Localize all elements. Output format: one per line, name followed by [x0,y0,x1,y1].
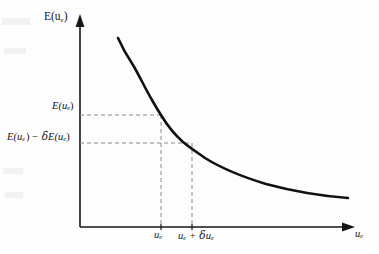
y-tick-lower-operator: ) − [25,131,42,142]
figure-canvas: E(ue) E(ue) E(ue) − δE(ue) ue ue + δue u… [0,0,379,254]
y-tick-lower-prefix: E( [7,131,17,142]
y-axis-label-close: ) [64,10,68,22]
y-tick-lower-suffix2: ) [66,131,70,142]
construction-guides [80,115,192,226]
y-axis-label-text: E(u [44,10,61,22]
energy-curve [118,38,348,198]
y-tick-label-upper: E(ue) [52,101,74,112]
x-tick-first-subscript: e [159,233,162,240]
x-axis-label-subscript: e [360,232,363,239]
x-tick-second-subscript2: e [211,234,214,241]
x-tick-label-first: ue [154,230,162,241]
y-axis-arrowhead [76,14,85,27]
x-axis-group [80,223,355,232]
x-tick-second-operator: + [186,230,199,241]
x-axis-arrowhead [342,223,355,232]
y-tick-upper-prefix: E( [52,100,62,111]
plot-area [0,0,379,254]
y-tick-lower-var2: E(u [48,131,63,142]
y-axis-label: E(ue) [44,11,68,24]
x-axis-label: ue [355,229,363,240]
y-axis-group [76,14,85,227]
y-tick-upper-suffix: ) [70,100,74,111]
x-tick-label-second: ue + δue [178,230,214,242]
y-tick-label-lower: E(ue) − δE(ue) [7,131,70,143]
